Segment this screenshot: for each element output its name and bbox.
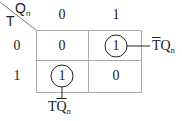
cell-0-1: 1 — [109, 39, 123, 53]
row-var-label: T — [6, 14, 15, 28]
term-right-label: TQn — [152, 39, 175, 58]
col-var-label: Qn — [15, 1, 30, 21]
col-header-1: 1 — [109, 8, 123, 22]
row-header-1: 1 — [10, 69, 24, 83]
col-header-0: 0 — [55, 8, 69, 22]
cell-1-0: 1 — [55, 69, 69, 83]
cell-0-0: 0 — [55, 39, 69, 53]
row-header-0: 0 — [10, 39, 24, 53]
term-bottom-label: TQn — [48, 100, 71, 119]
cell-1-1: 0 — [109, 69, 123, 83]
